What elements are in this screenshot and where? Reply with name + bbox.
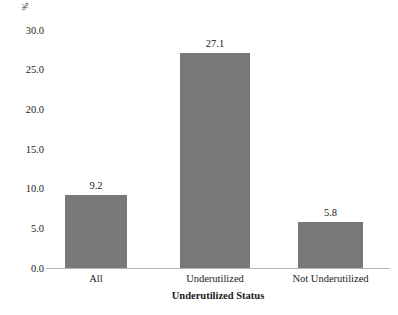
bar-group: 5.8	[298, 30, 363, 268]
y-axis-tick-label: 25.0	[2, 64, 44, 75]
bar-chart: % 0.05.010.015.020.025.030.0 9.227.15.8 …	[0, 0, 398, 315]
y-axis-tick-label: 20.0	[2, 104, 44, 115]
bar-group: 27.1	[180, 30, 250, 268]
bar	[180, 53, 250, 268]
y-axis-tick-label: 30.0	[2, 25, 44, 36]
y-axis-tick-label: 5.0	[2, 223, 44, 234]
bar-value-label: 9.2	[65, 180, 127, 192]
y-axis-tick-label: 15.0	[2, 144, 44, 155]
bar-value-label: 27.1	[180, 38, 250, 50]
y-axis-ticks: 0.05.010.015.020.025.030.0	[0, 0, 44, 315]
bar	[65, 195, 127, 268]
x-axis-title: Underutilized Status	[46, 289, 390, 302]
bar-value-label: 5.8	[298, 207, 363, 219]
plot-area: 9.227.15.8	[46, 30, 390, 268]
bar	[298, 222, 363, 268]
y-axis-tick-label: 10.0	[2, 183, 44, 194]
x-axis-tick-label: Not Underutilized	[261, 272, 398, 286]
bar-group: 9.2	[65, 30, 127, 268]
x-axis-ticks: AllUnderutilizedNot Underutilized	[46, 272, 390, 288]
x-axis-baseline	[46, 268, 390, 269]
